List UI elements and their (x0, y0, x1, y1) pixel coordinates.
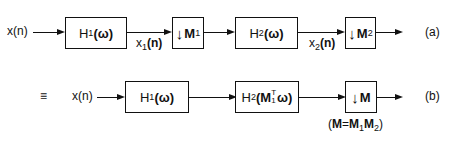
arrow-line (97, 97, 118, 98)
filter-h2-warped-block: H2(MT1ω) (235, 81, 299, 113)
arrow-line (299, 97, 339, 98)
down-arrow-icon: ↓ (348, 25, 356, 42)
arrow-line (298, 32, 338, 33)
note-eq: = (342, 117, 349, 131)
note-close: ) (379, 117, 383, 131)
arrowhead-icon (337, 29, 345, 35)
block-arg: (ω) (264, 26, 284, 41)
block-arg-close: ) (288, 90, 292, 105)
block-text: M (360, 90, 371, 105)
note-m2: M (364, 117, 374, 131)
note-m1: M (349, 117, 359, 131)
block-text: M (357, 26, 368, 41)
block-sub: 1 (195, 28, 200, 38)
arrow-line (377, 97, 396, 98)
block-arg-omega: ω (277, 90, 288, 105)
m-definition-note: (M=M1M2) (328, 117, 383, 133)
block-text: H (249, 26, 258, 41)
downsampler-m2-block: ↓M2 (345, 17, 376, 49)
signal-x2-label: x2(n) (309, 36, 335, 52)
input-label-b: x(n) (72, 89, 93, 103)
block-arg-m: M (260, 90, 271, 105)
signal-arg: (n) (147, 36, 162, 50)
signal-arg: (n) (320, 36, 335, 50)
arrowhead-icon (395, 29, 403, 35)
filter-h1-block-a: H1(ω) (65, 17, 127, 49)
filter-h1-block-b: H1(ω) (125, 81, 189, 113)
arrow-line (189, 97, 230, 98)
arrowhead-icon (117, 94, 125, 100)
arrow-line (33, 32, 58, 33)
input-text: x(n) (7, 24, 28, 38)
block-text: H (140, 90, 149, 105)
equivalence-symbol: ≡ (40, 89, 47, 103)
block-arg: (ω) (93, 26, 113, 41)
index-sub: 1 (271, 97, 276, 105)
downsampler-m1-block: ↓M1 (172, 17, 204, 49)
note-m: M (332, 117, 342, 131)
arrow-line (127, 32, 165, 33)
arrow-line (204, 32, 228, 33)
arrowhead-icon (164, 29, 172, 35)
signal-x1-label: x1(n) (136, 36, 162, 52)
block-text: H (242, 90, 251, 105)
transpose-index: T1 (271, 89, 276, 105)
input-label-a: x(n) (7, 24, 28, 38)
down-arrow-icon: ↓ (176, 25, 184, 42)
down-arrow-icon: ↓ (351, 89, 359, 106)
block-arg: (ω) (154, 90, 174, 105)
arrow-line (376, 32, 396, 33)
arrowhead-icon (57, 29, 65, 35)
block-sub: 2 (368, 28, 373, 38)
filter-h2-block-a: H2(ω) (235, 17, 298, 49)
block-text: H (79, 26, 88, 41)
block-text: M (184, 26, 195, 41)
input-text: x(n) (72, 89, 93, 103)
arrowhead-icon (227, 29, 235, 35)
row-a-label: (a) (425, 25, 440, 39)
arrowhead-icon (395, 94, 403, 100)
downsampler-m-block: ↓M (345, 81, 377, 113)
row-b-label: (b) (425, 89, 440, 103)
